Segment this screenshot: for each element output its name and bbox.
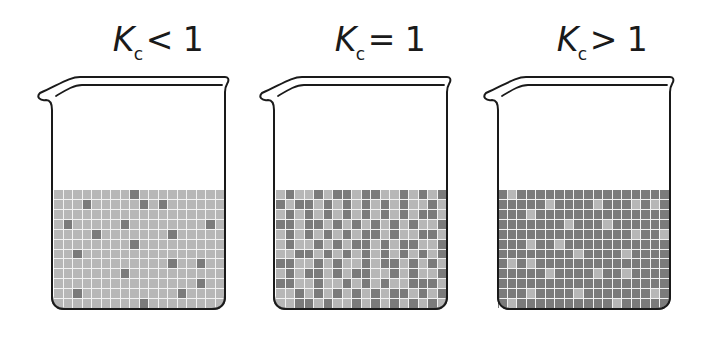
beaker-icon xyxy=(484,77,673,309)
beaker-outlines xyxy=(0,0,708,356)
beaker-icon xyxy=(260,77,450,309)
beaker-icon xyxy=(38,77,228,309)
